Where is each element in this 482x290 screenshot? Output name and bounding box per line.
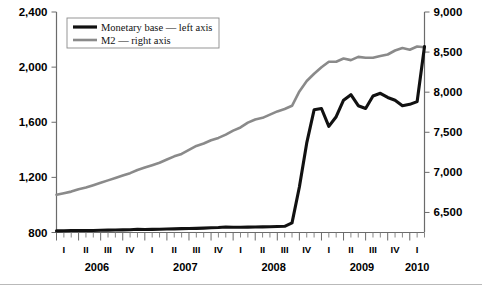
x-year-label: 2010	[405, 261, 429, 273]
x-quarter-label: I	[239, 244, 242, 255]
left-tick-label: 1,600	[19, 116, 48, 128]
x-quarter-label: IV	[391, 244, 401, 255]
dual-axis-line-chart: 8001,2001,6002,0002,400 6,5007,0007,5008…	[0, 0, 482, 290]
x-quarter-label: IV	[214, 244, 224, 255]
right-tick-label: 7,000	[434, 166, 463, 178]
x-quarter-label: IV	[302, 244, 312, 255]
x-quarter-label: II	[172, 244, 177, 255]
x-quarter-label: I	[327, 244, 330, 255]
x-quarter-label: II	[260, 244, 265, 255]
x-year-label: 2006	[85, 261, 109, 273]
left-tick-label: 2,000	[19, 61, 48, 73]
x-quarter-label: I	[151, 244, 154, 255]
legend-label: Monetary base — left axis	[101, 22, 212, 33]
x-year-label: 2009	[350, 261, 374, 273]
x-quarter-label: II	[83, 244, 88, 255]
left-tick-label: 2,400	[19, 6, 48, 18]
right-tick-label: 9,000	[434, 6, 463, 18]
chart-container: 8001,2001,6002,0002,400 6,5007,0007,5008…	[0, 0, 482, 290]
legend-label: M2 — right axis	[101, 35, 171, 46]
right-tick-label: 6,500	[434, 206, 463, 218]
x-year-label: 2007	[173, 261, 197, 273]
x-quarter-label: III	[281, 244, 289, 255]
x-quarter-label: I	[416, 244, 419, 255]
left-tick-label: 800	[28, 227, 47, 239]
x-quarter-label: III	[192, 244, 200, 255]
x-quarter-label: IV	[126, 244, 136, 255]
left-tick-label: 1,200	[19, 171, 48, 183]
legend: Monetary base — left axisM2 — right axis	[67, 18, 219, 48]
x-quarter-label: III	[104, 244, 112, 255]
x-quarter-label: III	[369, 244, 377, 255]
x-quarter-label: I	[63, 244, 66, 255]
right-tick-label: 8,000	[434, 86, 463, 98]
x-quarter-label: II	[348, 244, 353, 255]
right-tick-label: 8,500	[434, 46, 463, 58]
x-year-label: 2008	[261, 261, 285, 273]
right-tick-label: 7,500	[434, 126, 463, 138]
